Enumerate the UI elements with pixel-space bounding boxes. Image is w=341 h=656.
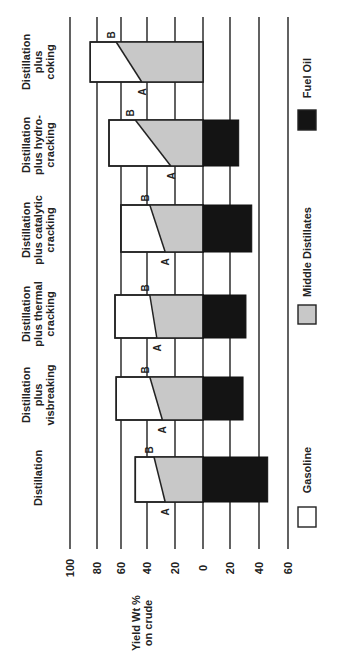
category-label: Distillation xyxy=(20,202,32,259)
legend-label: Gasoline xyxy=(301,447,313,493)
chart-canvas: 100806040200204060BADistillationBADistil… xyxy=(0,0,341,656)
y-axis-label-line2: on crude xyxy=(142,588,154,656)
marker-a: A xyxy=(160,508,171,515)
middle-distillates-segment xyxy=(150,295,203,338)
axis-tick-label: 40 xyxy=(253,562,265,574)
category-label: Distillation xyxy=(32,450,44,507)
legend-label: Fuel Oil xyxy=(301,58,313,98)
category-label: coking xyxy=(44,44,56,79)
refinery-yield-chart: 100806040200204060BADistillationBADistil… xyxy=(0,0,341,656)
axis-tick-label: 100 xyxy=(64,559,76,577)
marker-b: B xyxy=(144,446,155,453)
fuel-oil-segment xyxy=(203,295,246,338)
axis-tick-label: 20 xyxy=(169,562,181,574)
bar-group: BA xyxy=(135,446,267,515)
bar-group: BA xyxy=(115,284,246,351)
marker-a: A xyxy=(152,344,163,351)
axis-tick-label: 40 xyxy=(141,562,153,574)
category-label: plus thermal xyxy=(32,281,44,346)
y-axis-label: Yield Wt % on crude xyxy=(130,588,156,656)
marker-b: B xyxy=(140,194,151,201)
category-label: Distillation xyxy=(20,367,32,424)
category-label: cracking xyxy=(44,207,56,252)
marker-b: B xyxy=(125,109,136,116)
category-label: plus xyxy=(32,384,44,407)
marker-b: B xyxy=(140,284,151,291)
axis-tick-label: 0 xyxy=(197,565,209,571)
category-label: visbreaking xyxy=(44,364,56,425)
legend-swatch xyxy=(298,507,316,527)
bar-group: BA xyxy=(109,109,239,179)
fuel-oil-segment xyxy=(203,205,252,252)
marker-a: A xyxy=(157,426,168,433)
axis-tick-label: 60 xyxy=(282,562,294,574)
marker-b: B xyxy=(106,31,117,38)
bar-group: BA xyxy=(116,366,243,433)
marker-a: A xyxy=(137,88,148,95)
category-label: Distillation xyxy=(20,34,32,91)
axis-tick-label: 20 xyxy=(224,562,236,574)
bar-group: BA xyxy=(121,194,252,265)
axis-tick-label: 60 xyxy=(115,562,127,574)
fuel-oil-segment xyxy=(203,120,239,166)
legend-swatch xyxy=(298,110,316,130)
category-label: Distillation xyxy=(20,286,32,343)
axis-tick-label: 80 xyxy=(91,562,103,574)
marker-a: A xyxy=(160,258,171,265)
category-label: plus xyxy=(32,51,44,74)
legend-label: Middle Distillates xyxy=(301,207,313,297)
category-label: cracking xyxy=(44,122,56,167)
marker-b: B xyxy=(140,366,151,373)
y-axis-label-line1: Yield Wt % xyxy=(130,588,142,656)
category-label: cracking xyxy=(44,291,56,336)
marker-a: A xyxy=(166,172,177,179)
fuel-oil-segment xyxy=(203,377,243,420)
legend-swatch xyxy=(298,305,316,324)
category-label: Distillation xyxy=(20,117,32,174)
category-label: plus catalytic xyxy=(32,195,44,265)
category-label: plus hydro- xyxy=(32,115,44,175)
fuel-oil-segment xyxy=(203,457,268,502)
